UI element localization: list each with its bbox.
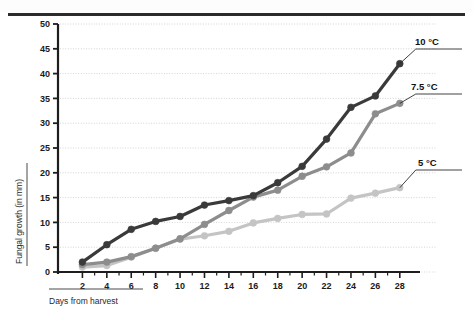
y-tick-label-0: 0 [45,267,50,277]
data-point[interactable] [323,163,330,170]
x-axis-title: Days from harvest [49,296,119,306]
y-tick-label-40: 40 [40,69,50,79]
data-point[interactable] [128,253,135,260]
data-point[interactable] [226,197,233,204]
y-tick-label-5: 5 [45,242,50,252]
data-point[interactable] [299,173,306,180]
y-axis [53,24,58,274]
data-point[interactable] [372,110,379,117]
data-point[interactable] [103,241,110,248]
data-point[interactable] [79,259,86,266]
data-point[interactable] [250,192,257,199]
y-tick-label-15: 15 [40,193,50,203]
series-75C [79,100,403,268]
data-point[interactable] [201,202,208,209]
data-point[interactable] [152,245,159,252]
data-point[interactable] [226,228,233,235]
data-point[interactable] [201,221,208,228]
x-tick-label-10: 10 [175,281,185,291]
x-tick-label-12: 12 [199,281,209,291]
data-point[interactable] [299,211,306,218]
data-point[interactable] [299,163,306,170]
data-point[interactable] [372,93,379,100]
series-line [82,103,399,264]
data-point[interactable] [103,259,110,266]
x-tick-label-24: 24 [346,281,356,291]
series-label-75c: 7.5 °C [411,81,438,92]
data-point[interactable] [152,218,159,225]
x-tick-label-14: 14 [224,281,234,291]
data-point[interactable] [323,211,330,218]
y-tick-label-30: 30 [40,118,50,128]
x-tick-label-8: 8 [153,281,158,291]
x-tick-label-18: 18 [273,281,283,291]
y-tick-label-35: 35 [40,94,50,104]
x-axis [57,272,420,278]
page-top-margin [0,0,473,12]
x-tick-label-16: 16 [248,281,258,291]
y-axis-title: Fungal growth (in mm) [14,179,24,264]
data-point[interactable] [372,190,379,197]
data-point[interactable] [201,232,208,239]
y-tick-label-20: 20 [40,168,50,178]
data-series-layer [79,60,403,270]
y-tick-label-10: 10 [40,218,50,228]
line-chart: 05101520253035404550 2468101214161820222… [0,16,473,315]
x-tick-label-22: 22 [322,281,332,291]
data-point[interactable] [250,220,257,227]
data-point[interactable] [274,215,281,222]
x-tick-label-20: 20 [297,281,307,291]
data-point[interactable] [177,213,184,220]
data-point[interactable] [348,104,355,111]
data-point[interactable] [274,187,281,194]
data-point[interactable] [348,150,355,157]
data-point[interactable] [128,226,135,233]
gridlines [60,24,437,272]
x-tick-label-28: 28 [395,281,405,291]
y-tick-labels: 05101520253035404550 [40,19,50,277]
data-point[interactable] [177,235,184,242]
series-label-5c: 5 °C [418,157,437,168]
data-point[interactable] [323,136,330,143]
data-point[interactable] [274,179,281,186]
y-tick-label-25: 25 [40,143,50,153]
series-label-10c: 10 °C [415,36,439,47]
series-10C [79,60,403,265]
leader-10c [400,49,462,64]
x-tick-label-26: 26 [370,281,380,291]
chart-figure: 05101520253035404550 2468101214161820222… [0,16,473,315]
y-tick-label-50: 50 [40,19,50,29]
data-point[interactable] [348,195,355,202]
y-tick-label-45: 45 [40,44,50,54]
figure-root: 05101520253035404550 2468101214161820222… [0,0,473,315]
data-point[interactable] [226,207,233,214]
